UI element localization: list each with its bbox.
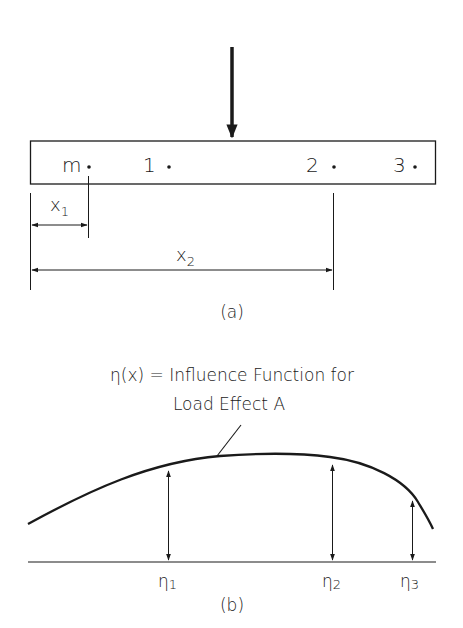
- dimension-label-x2: x2: [176, 244, 195, 269]
- caption-b: (b): [220, 595, 244, 615]
- ordinate-label-eta2: η2: [322, 571, 341, 592]
- ordinate-label-eta3: η3: [400, 571, 419, 592]
- influence-function-title-line1: η(x) = Influence Function for: [110, 365, 354, 385]
- influence-function-title-line2: Load Effect A: [173, 394, 286, 414]
- point-dot-m: [87, 165, 91, 169]
- point-dot-2: [332, 165, 336, 169]
- point-label-2: 2: [306, 153, 319, 177]
- point-label-1: 1: [143, 153, 156, 177]
- point-dot-3: [413, 165, 417, 169]
- point-label-3: 3: [393, 153, 406, 177]
- caption-a: (a): [220, 302, 244, 322]
- influence-curve: [28, 454, 433, 529]
- influence-diagram: m 1 2 3 x1 x2 (a) η(x) = Influence Funct…: [0, 0, 463, 628]
- point-dot-1: [167, 165, 171, 169]
- leader-line: [217, 425, 241, 456]
- part-a: m 1 2 3 x1 x2 (a): [31, 47, 436, 322]
- ordinate-label-eta1: η1: [158, 571, 177, 592]
- part-b: η(x) = Influence Function for Load Effec…: [28, 365, 436, 615]
- beam: [31, 141, 436, 184]
- dimension-label-x1: x1: [50, 194, 69, 219]
- point-label-m: m: [62, 153, 81, 177]
